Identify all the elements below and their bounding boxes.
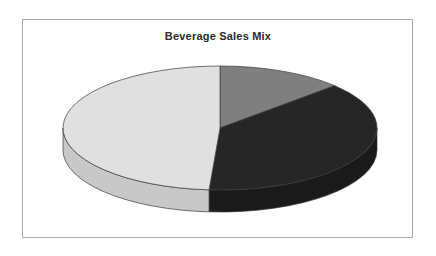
chart-title: Beverage Sales Mix [0,30,436,42]
chart-canvas: Beverage Sales Mix [0,0,436,256]
